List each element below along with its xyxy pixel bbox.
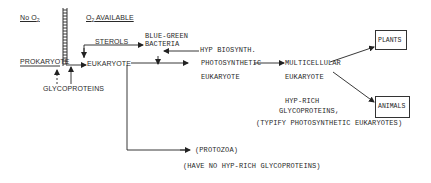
node-eukaryote: EUKARYOTE xyxy=(87,60,131,67)
note-protozoa: (HAVE NO HYP-RICH GLYCOPROTEINS) xyxy=(183,163,321,170)
node-plants-label: PLANTS xyxy=(378,37,401,44)
node-glycoproteins: GLYCOPROTEINS xyxy=(43,85,104,92)
node-blue-green-bacteria-line2: BACTERIA xyxy=(145,41,179,48)
node-prokaryote: PROKARYOTE xyxy=(20,58,70,65)
note-typify-photosynthetic: (TYPIFY PHOTOSYNTHETIC EUKARYOTES) xyxy=(256,120,402,127)
region-label-oxygen-available: O2 AVAILABLE xyxy=(86,14,134,23)
node-photosynthetic-eukaryote-line1: PHOTOSYNTHETIC xyxy=(201,60,261,67)
note-hyp-rich-line1: HYP-RICH xyxy=(285,98,319,105)
node-animals-box: ANIMALS xyxy=(375,96,410,118)
note-hyp-rich-line2: GLYCOPROTEINS, xyxy=(279,108,339,115)
node-hyp-biosynth: HYP BIOSYNTH. xyxy=(200,47,256,54)
node-protozoa: (PROTOZOA) xyxy=(195,147,238,154)
node-multicellular-eukaryote-line1: MULTICELLULAR xyxy=(285,60,341,67)
node-sterols: STEROLS xyxy=(95,38,128,45)
node-photosynthetic-eukaryote-line2: EUKARYOTE xyxy=(201,74,240,81)
node-animals-label: ANIMALS xyxy=(378,103,405,110)
node-blue-green-bacteria-line1: BLUE-GREEN xyxy=(145,33,188,40)
region-label-no-oxygen: No O2 xyxy=(20,14,40,23)
node-multicellular-eukaryote-line2: EUKARYOTE xyxy=(285,74,324,81)
node-plants-box: PLANTS xyxy=(375,30,407,50)
